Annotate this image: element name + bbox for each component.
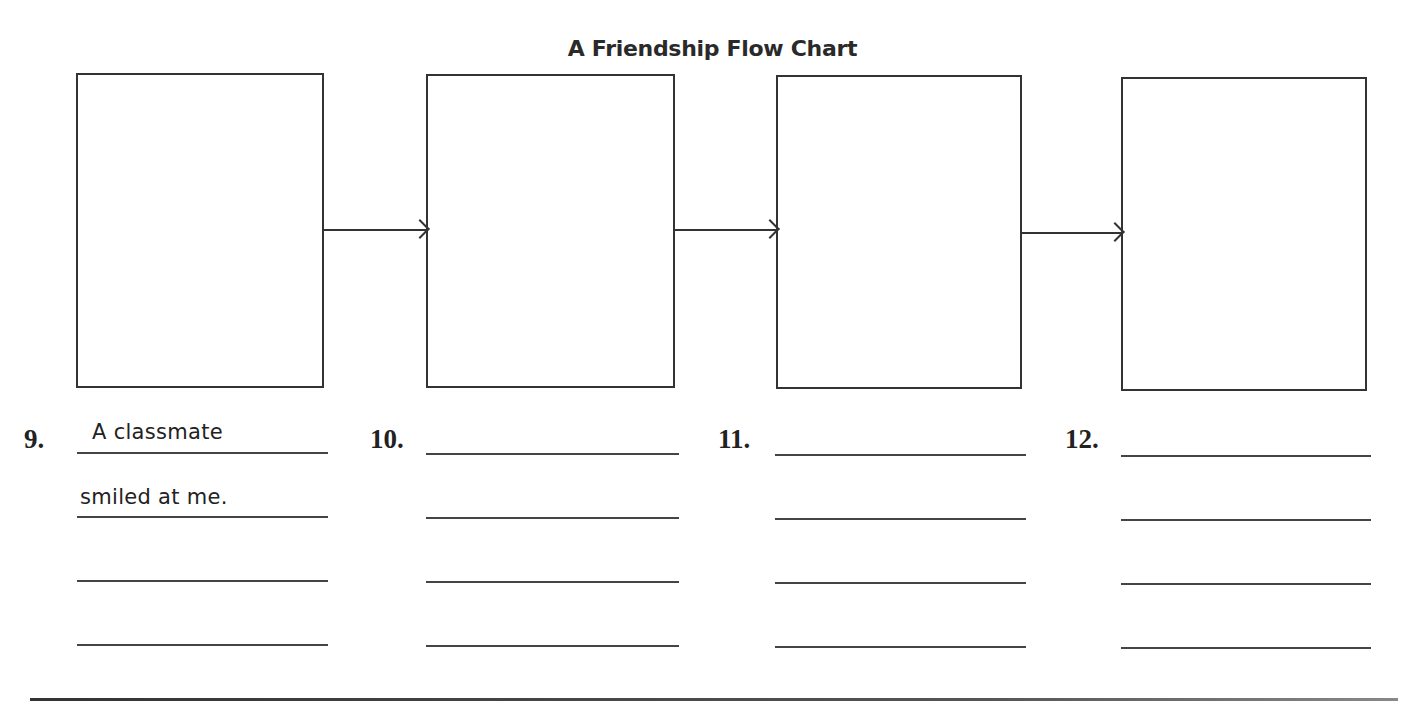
answer-12-line-3[interactable] — [1121, 583, 1371, 585]
question-number-11: 11. — [718, 424, 750, 455]
answer-9-line-2[interactable] — [77, 516, 328, 518]
flow-box-4[interactable] — [1121, 77, 1367, 391]
answer-12-line-1[interactable] — [1121, 455, 1371, 457]
answer-10-line-1[interactable] — [426, 453, 679, 455]
flow-box-3[interactable] — [776, 75, 1022, 389]
answer-12-line-4[interactable] — [1121, 647, 1371, 649]
answer-11-line-1[interactable] — [775, 454, 1026, 456]
answer-12-line-2[interactable] — [1121, 519, 1371, 521]
answer-9-line-2-text: smiled at me. — [80, 485, 228, 509]
arrow-right-icon — [675, 229, 776, 231]
page-title: A Friendship Flow Chart — [0, 36, 1425, 61]
answer-10-line-3[interactable] — [426, 581, 679, 583]
question-number-10: 10. — [370, 424, 404, 455]
answer-9-line-4[interactable] — [77, 644, 328, 646]
answer-9-line-3[interactable] — [77, 580, 328, 582]
answer-11-line-3[interactable] — [775, 582, 1026, 584]
arrow-right-icon — [1022, 232, 1121, 234]
question-number-12: 12. — [1065, 424, 1099, 455]
arrow-right-icon — [324, 229, 426, 231]
answer-10-line-4[interactable] — [426, 645, 679, 647]
flow-box-1[interactable] — [76, 73, 324, 388]
answer-10-line-2[interactable] — [426, 517, 679, 519]
answer-9-line-1[interactable] — [77, 452, 328, 454]
answer-9-line-1-text: A classmate — [92, 420, 223, 444]
question-number-9: 9. — [24, 424, 44, 455]
answer-11-line-2[interactable] — [775, 518, 1026, 520]
answer-11-line-4[interactable] — [775, 646, 1026, 648]
flow-box-2[interactable] — [426, 74, 675, 388]
